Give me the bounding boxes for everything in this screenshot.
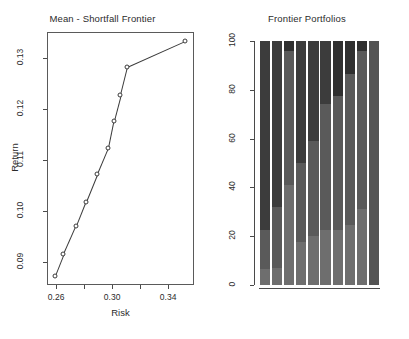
portfolio-bar-segment: [320, 104, 330, 230]
portfolio-bar-segment: [333, 41, 343, 96]
portfolio-bar: [369, 41, 379, 285]
portfolio-bar: [357, 41, 367, 285]
left-y-tick: [43, 58, 47, 59]
right-x-axis-line: [259, 288, 380, 289]
left-x-tick: [56, 285, 57, 289]
left-x-tick: [84, 285, 85, 289]
right-y-tick-label: 100: [227, 23, 237, 57]
portfolio-bar-segment: [284, 41, 294, 51]
portfolio-bar-segment: [296, 41, 306, 163]
frontier-point: [118, 93, 123, 98]
portfolio-plot-area: [259, 41, 380, 285]
portfolio-bar: [260, 41, 270, 285]
left-x-tick-label: 0.30: [104, 292, 121, 302]
left-y-tick: [43, 262, 47, 263]
portfolio-bar-segment: [284, 185, 294, 285]
portfolio-bar-segment: [333, 230, 343, 285]
portfolio-bar-segment: [345, 74, 355, 225]
frontier-point: [83, 200, 88, 205]
portfolio-bar-segment: [260, 41, 270, 230]
portfolio-bar-segment: [296, 242, 306, 285]
portfolio-bar-segment: [357, 209, 367, 285]
right-y-tick: [250, 90, 254, 91]
portfolio-bar-segment: [320, 41, 330, 104]
left-y-tick: [43, 109, 47, 110]
left-x-axis-title: Risk: [47, 307, 194, 318]
left-y-axis-title: Return: [9, 137, 20, 177]
left-y-tick: [43, 160, 47, 161]
portfolio-bar-segment: [272, 268, 282, 285]
left-y-tick-label: 0.12: [15, 89, 25, 128]
portfolio-bar-segment: [284, 51, 294, 185]
portfolio-bar-segment: [333, 96, 343, 230]
left-x-tick-label: 0.34: [160, 292, 177, 302]
frontier-point: [183, 39, 188, 44]
portfolio-bar-segment: [308, 41, 318, 141]
portfolio-bar: [284, 41, 294, 285]
right-y-tick: [250, 187, 254, 188]
portfolio-bar-segment: [320, 230, 330, 285]
portfolio-bar: [320, 41, 330, 285]
portfolio-bar-segment: [296, 163, 306, 242]
portfolio-bar: [296, 41, 306, 285]
portfolio-bar-segment: [272, 207, 282, 268]
right-y-tick-label: 40: [227, 169, 237, 203]
portfolio-bar: [345, 41, 355, 285]
right-y-tick-label: 60: [227, 121, 237, 155]
right-y-tick: [250, 139, 254, 140]
right-y-tick-label: 80: [227, 72, 237, 106]
portfolio-bar: [333, 41, 343, 285]
frontier-point: [125, 65, 130, 70]
frontier-point: [61, 252, 66, 257]
portfolio-bar-segment: [357, 41, 367, 51]
portfolio-bar-segment: [345, 41, 355, 74]
frontier-point: [52, 274, 57, 279]
portfolio-bar-segment: [357, 51, 367, 210]
left-x-tick: [168, 285, 169, 289]
frontier-point: [105, 146, 110, 151]
frontier-point: [95, 171, 100, 176]
right-y-tick-label: 20: [227, 218, 237, 252]
portfolio-bar-segment: [369, 41, 379, 285]
left-panel-title: Mean - Shortfall Frontier: [0, 13, 205, 24]
portfolio-bar-segment: [260, 230, 270, 269]
portfolio-bar-segment: [260, 269, 270, 285]
right-y-axis-line: [254, 41, 255, 285]
portfolio-bar-segment: [345, 225, 355, 285]
left-y-tick-label: 0.13: [15, 38, 25, 77]
portfolio-bar: [272, 41, 282, 285]
left-y-tick-label: 0.09: [15, 242, 25, 281]
portfolio-bar-segment: [308, 236, 318, 285]
frontier-plot-area: [47, 32, 194, 285]
portfolio-bar: [308, 41, 318, 285]
frontier-point: [73, 223, 78, 228]
left-x-tick-label: 0.26: [48, 292, 65, 302]
right-y-tick: [250, 236, 254, 237]
left-x-tick: [140, 285, 141, 289]
left-y-tick: [43, 211, 47, 212]
frontier-point: [111, 118, 116, 123]
panel-mean-shortfall-frontier: Mean - Shortfall Frontier 0.090.100.110.…: [0, 0, 205, 339]
left-x-tick: [112, 285, 113, 289]
portfolio-bar-segment: [308, 141, 318, 236]
left-y-tick-label: 0.10: [15, 191, 25, 230]
right-y-tick-label: 0: [227, 267, 237, 301]
right-y-tick: [250, 41, 254, 42]
right-y-tick: [250, 285, 254, 286]
portfolio-bar-segment: [272, 41, 282, 207]
figure-canvas: Mean - Shortfall Frontier 0.090.100.110.…: [0, 0, 409, 339]
